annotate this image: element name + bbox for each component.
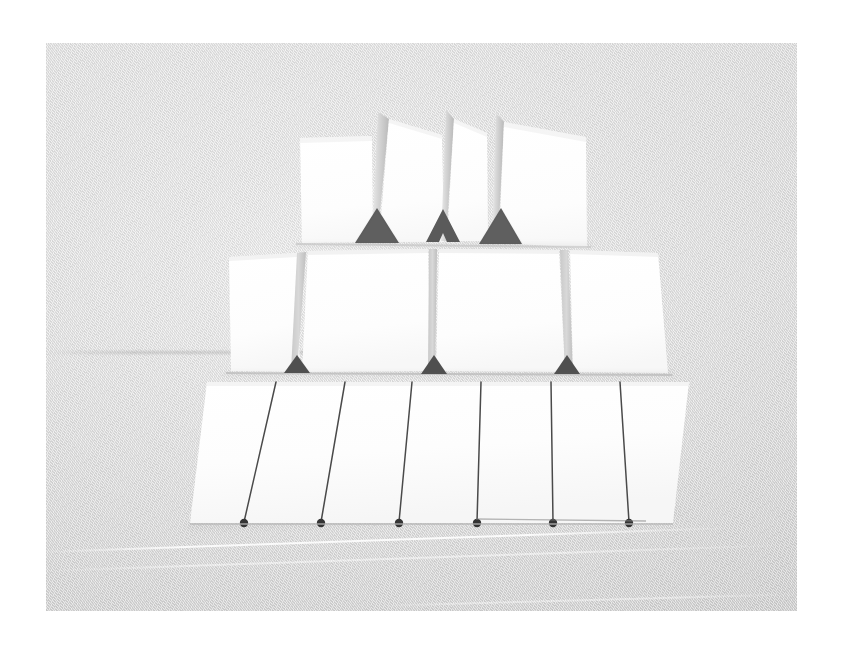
top-tier-cast-shadow [296,243,592,247]
top-tier-apex-shadows [46,43,797,611]
photograph: A three-tier house of cards built from p… [46,43,797,611]
top-apex-shadow-2 [426,209,460,242]
photo-mat-frame: A three-tier house of cards built from p… [0,0,843,649]
